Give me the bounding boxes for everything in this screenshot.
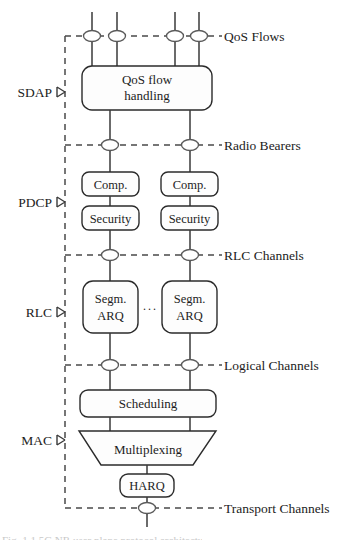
scheduling-label: Scheduling bbox=[119, 396, 178, 411]
channel-label-logical-channels: Logical Channels bbox=[224, 358, 319, 373]
comp-right-label: Comp. bbox=[173, 178, 207, 192]
rlc-entities-ellipsis: ··· bbox=[143, 302, 158, 316]
comp-left-label: Comp. bbox=[94, 178, 128, 192]
channel-label-rlc-channels: RLC Channels bbox=[224, 248, 304, 263]
layer-label-mac: MAC bbox=[21, 433, 52, 448]
harq-label: HARQ bbox=[129, 479, 164, 493]
segm-arq-right-box[interactable] bbox=[162, 281, 217, 333]
multiplexing-label: Multiplexing bbox=[114, 442, 182, 457]
channel-label-qos-flows: QoS Flows bbox=[224, 29, 284, 44]
transport-channel-node bbox=[139, 503, 156, 514]
segm-arq-left-box[interactable] bbox=[83, 281, 138, 333]
radio-bearer-node-left bbox=[102, 140, 119, 151]
segm-arq-right-label-line1: Segm. bbox=[174, 292, 206, 306]
segm-arq-right-label-line2: ARQ bbox=[176, 309, 202, 323]
channel-label-radio-bearers: Radio Bearers bbox=[224, 138, 301, 153]
segm-arq-left-label-line2: ARQ bbox=[97, 309, 123, 323]
qos-flow-node-3 bbox=[167, 31, 184, 42]
pdcp-brace bbox=[57, 197, 65, 207]
security-left-label: Security bbox=[90, 212, 132, 226]
channel-label-transport-channels: Transport Channels bbox=[224, 501, 330, 516]
rlc-channel-node-left bbox=[102, 250, 119, 261]
figure-canvas: QoS flow handling Comp. Comp. Security S… bbox=[0, 0, 341, 540]
rlc-channel-node-right bbox=[182, 250, 199, 261]
layer-label-pdcp: PDCP bbox=[18, 195, 52, 210]
figure-caption-sliver: Fig. 1.1 5G NR user plane protocol archi… bbox=[2, 533, 202, 540]
qos-flow-handling-label-line1: QoS flow bbox=[122, 72, 173, 87]
layer-label-rlc: RLC bbox=[26, 305, 52, 320]
rlc-brace bbox=[57, 307, 65, 317]
qos-flow-node-1 bbox=[84, 31, 101, 42]
logical-channel-node-left bbox=[102, 360, 119, 371]
qos-flow-node-2 bbox=[109, 31, 126, 42]
layer-label-sdap: SDAP bbox=[17, 85, 52, 100]
radio-bearer-node-right bbox=[182, 140, 199, 151]
protocol-stack-diagram: QoS flow handling Comp. Comp. Security S… bbox=[0, 0, 341, 540]
mac-brace bbox=[57, 435, 65, 445]
qos-flow-handling-label-line2: handling bbox=[124, 88, 170, 103]
qos-flow-node-4 bbox=[191, 31, 208, 42]
logical-channel-node-right bbox=[182, 360, 199, 371]
segm-arq-left-label-line1: Segm. bbox=[95, 292, 127, 306]
security-right-label: Security bbox=[169, 212, 211, 226]
sdap-brace bbox=[57, 87, 65, 97]
